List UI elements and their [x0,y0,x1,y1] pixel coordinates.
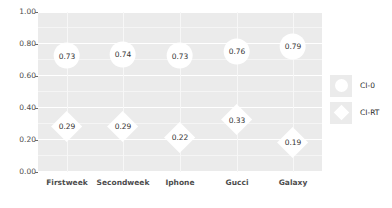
gridline-x-secondweek [123,12,124,172]
legend-label-ci-rt: CI-RT [360,108,379,117]
data-point-ci0-gucci[interactable]: 0.76 [229,47,246,56]
y-axis-tickmark-0.60 [35,76,38,77]
y-axis-tick-0.00: 0.00 [0,168,36,176]
legend-key-background [330,75,352,97]
y-axis-tick-0.80: 0.80 [0,40,36,48]
data-point-cirt-galaxy[interactable]: 0.19 [285,138,302,147]
legend-label-ci-0: CI-0 [360,81,375,90]
data-point-cirt-iphone[interactable]: 0.22 [172,133,189,142]
gridline-x-gucci [237,12,238,172]
data-point-ci0-firstweek[interactable]: 0.73 [59,51,76,60]
y-axis-tick-0.20: 0.20 [0,136,36,144]
y-axis-tickmark-0.00 [35,172,38,173]
legend-item-ci-0[interactable]: CI-0 [330,72,390,99]
y-axis-tickmark-0.40 [35,108,38,109]
data-point-cirt-secondweek[interactable]: 0.29 [115,122,132,131]
legend-item-ci-rt[interactable]: CI-RT [330,99,390,126]
data-point-cirt-firstweek[interactable]: 0.29 [59,122,76,131]
legend-key-background [330,102,352,124]
x-axis-tick-secondweek: Secondweek [97,178,150,187]
data-point-ci0-galaxy[interactable]: 0.79 [285,42,302,51]
chart-legend: CI-0 CI-RT [330,72,390,126]
circle-marker-icon [335,79,348,92]
y-axis-tick-1.00: 1.00 [0,8,36,16]
data-point-ci0-secondweek[interactable]: 0.74 [115,50,132,59]
data-point-ci0-iphone[interactable]: 0.73 [172,51,189,60]
y-axis-tickmark-0.80 [35,44,38,45]
data-point-cirt-gucci[interactable]: 0.33 [229,115,246,124]
gridline-x-firstweek [67,12,68,172]
diamond-marker-icon [333,105,349,121]
plot-panel: 0.73 0.74 0.73 0.76 0.79 0.29 0.29 [38,12,322,172]
y-axis-tickmark-1.00 [35,12,38,13]
x-axis-tick-iphone: Iphone [165,178,194,187]
x-axis-tick-gucci: Gucci [226,178,249,187]
x-axis-tick-firstweek: Firstweek [46,178,88,187]
x-axis-tick-galaxy: Galaxy [279,178,308,187]
y-axis-tickmark-0.20 [35,140,38,141]
y-axis-tick-0.40: 0.40 [0,104,36,112]
y-axis-tick-0.60: 0.60 [0,72,36,80]
scatter-chart: 0.73 0.74 0.73 0.76 0.79 0.29 0.29 [0,0,392,208]
